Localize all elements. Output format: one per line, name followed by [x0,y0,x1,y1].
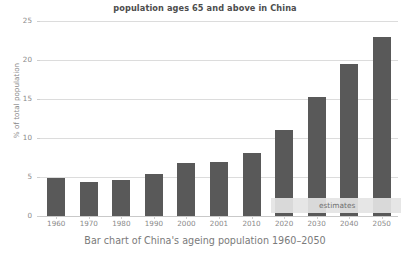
bar-2000 [177,163,195,216]
x-tick-mark-2001 [219,216,220,219]
x-tick-mark-2050 [382,216,383,219]
y-tick-label-0: 0 [6,212,32,219]
y-tick-label-10: 10 [6,134,32,141]
figure-caption: Bar chart of China's ageing population 1… [0,235,410,246]
x-tick-mark-1970 [89,216,90,219]
chart-title: population ages 65 and above in China [0,3,410,13]
bar-chart-figure: population ages 65 and above in China % … [0,0,410,257]
plot-area: estimates [40,21,398,216]
x-tick-mark-1990 [154,216,155,219]
bar-1980 [112,180,130,216]
x-tick-mark-1960 [56,216,57,219]
bar-2010 [243,153,261,216]
bar-1960 [47,178,65,216]
y-tick-label-25: 25 [6,17,32,24]
bar-2040 [340,64,358,216]
y-tick-label-20: 20 [6,56,32,63]
estimates-label: estimates [319,198,355,213]
y-tick-label-15: 15 [6,95,32,102]
bar-2001 [210,162,228,216]
bar-2050 [373,37,391,216]
bar-1970 [80,182,98,216]
x-tick-label-2050: 2050 [362,220,402,227]
x-tick-mark-2040 [349,216,350,219]
y-tick-label-5: 5 [6,173,32,180]
bar-1990 [145,174,163,216]
x-tick-mark-2030 [317,216,318,219]
gridline-20 [40,60,398,61]
x-tick-mark-2000 [186,216,187,219]
x-tick-mark-1980 [121,216,122,219]
x-tick-mark-2010 [252,216,253,219]
x-tick-mark-2020 [284,216,285,219]
gridline-25 [40,21,398,22]
